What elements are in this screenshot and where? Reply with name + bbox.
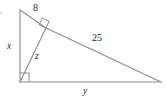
altitude-line — [20, 28, 46, 82]
geometry-figure: , 8 25 x z y — [0, 0, 166, 110]
label-horizontal-leg: y — [83, 87, 87, 97]
label-hypotenuse-lower-segment: 25 — [92, 33, 102, 43]
hypotenuse-lower-segment-line — [46, 28, 161, 82]
label-vertical-leg: x — [7, 42, 11, 52]
label-hypotenuse-upper-segment: 8 — [33, 3, 38, 13]
edge-artifact-glyph: , — [0, 6, 1, 15]
right-angle-marker-vertex — [20, 73, 29, 82]
label-altitude: z — [35, 52, 39, 62]
